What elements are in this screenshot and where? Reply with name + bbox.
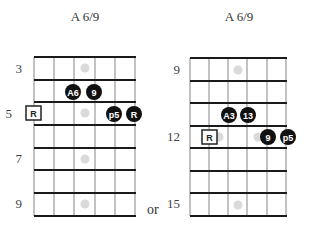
svg-text:A6: A6 — [67, 88, 79, 98]
svg-text:13: 13 — [243, 111, 253, 121]
inlay-dot-icon — [81, 155, 90, 164]
svg-text:R: R — [30, 109, 37, 119]
diagram-1-note-a6: A6 — [65, 84, 81, 100]
diagram-1-note-p5: p5 — [106, 106, 122, 122]
diagram-2-note-13: 13 — [240, 107, 256, 123]
diagram-1-note-9: 9 — [86, 84, 102, 100]
inlay-dot-icon — [81, 200, 90, 209]
inlay-dot-icon — [234, 66, 243, 75]
inlay-dot-icon — [81, 109, 90, 118]
svg-text:R: R — [131, 110, 138, 120]
svg-text:R: R — [206, 133, 213, 143]
diagram-2-note-p5: p5 — [280, 129, 296, 145]
diagram-1-inlay-markers — [81, 64, 90, 209]
svg-text:9: 9 — [91, 88, 96, 98]
diagram-2-note-a3: A3 — [221, 107, 237, 123]
diagram-2-root-square: R — [202, 130, 217, 144]
diagram-1-fretboard: A6 9 R p5 R — [26, 57, 142, 216]
diagram-2-inlay-markers — [215, 66, 263, 210]
svg-text:p5: p5 — [283, 133, 294, 143]
diagram-2-note-9: 9 — [260, 129, 276, 145]
diagram-2-fretboard: A3 13 R 9 p5 — [190, 58, 296, 216]
inlay-dot-icon — [234, 201, 243, 210]
diagram-1-note-root: R — [126, 106, 142, 122]
svg-text:p5: p5 — [109, 110, 120, 120]
svg-text:9: 9 — [265, 133, 270, 143]
diagram-1-root-square: R — [26, 106, 41, 120]
inlay-dot-icon — [81, 64, 90, 73]
fretboard-diagrams: A6 9 R p5 R — [0, 0, 309, 228]
svg-text:A3: A3 — [223, 111, 235, 121]
